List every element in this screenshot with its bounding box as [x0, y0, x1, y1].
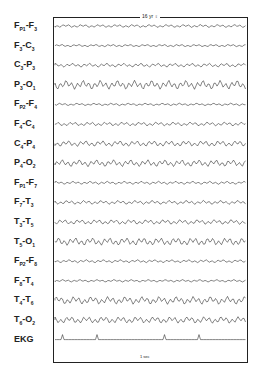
channel-label: F7-T3 [14, 196, 52, 208]
channel-label: C4-P4 [14, 138, 52, 150]
channel-label: F3-C3 [14, 40, 52, 52]
channel-label: C3-P3 [14, 59, 52, 71]
channel-label: FP2-F8 [14, 255, 52, 267]
channel-label: F8-T4 [14, 275, 52, 287]
channel-label: EKG [14, 334, 52, 344]
channel-label: T4-T6 [14, 294, 52, 306]
channel-label: F4-C4 [14, 118, 52, 130]
channel-label: T3-T5 [14, 216, 52, 228]
channel-label: T6-O2 [14, 314, 52, 326]
channel-label: FP1-F3 [14, 20, 52, 32]
channel-label: P3-O1 [14, 79, 52, 91]
calibration-label: 1 sec [140, 354, 150, 359]
eeg-traces [53, 17, 248, 363]
channel-label: FP1-F7 [14, 177, 52, 189]
channel-label: P4-O2 [14, 157, 52, 169]
channel-label: FP2-F4 [14, 98, 52, 110]
channel-label: T5-O1 [14, 236, 52, 248]
